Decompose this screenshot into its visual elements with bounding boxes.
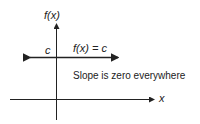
x-axis-label: x [159, 93, 165, 104]
constant-function-diagram: f(x) c f(x) = c Slope is zero everywhere… [0, 0, 200, 124]
constant-label: c [45, 45, 51, 56]
axes-and-line [0, 0, 200, 124]
y-axis-label: f(x) [44, 10, 60, 21]
slope-annotation: Slope is zero everywhere [73, 71, 185, 81]
function-label: f(x) = c [73, 43, 107, 54]
